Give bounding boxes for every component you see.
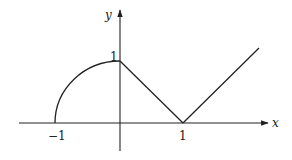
tick-label-x-neg-one: −1 — [48, 129, 66, 143]
quarter-circle-arc — [55, 61, 120, 123]
tick-label-x-one: 1 — [179, 129, 187, 143]
descending-segment — [120, 61, 183, 123]
function-graph: y x 1 −1 1 — [0, 0, 292, 160]
y-axis-label: y — [104, 8, 112, 22]
ascending-ray — [183, 48, 259, 123]
tick-label-y-one: 1 — [110, 50, 118, 64]
x-axis-label: x — [272, 116, 279, 130]
